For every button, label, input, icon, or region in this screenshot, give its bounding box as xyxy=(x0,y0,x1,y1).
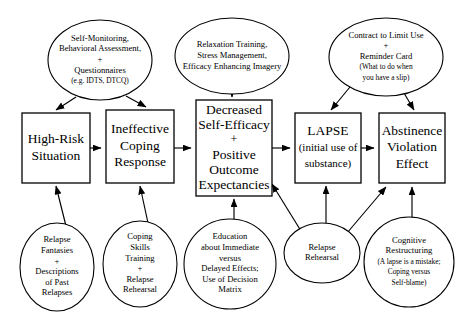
ellipse-coping-skills-training[interactable]: CopingSkillsTraining+RelapseRehearsal xyxy=(103,221,177,307)
node-text-line: Relapse xyxy=(126,274,153,284)
edge-relapse-rehearsal-to-abstinence-violation-effect xyxy=(347,187,386,233)
box-ineffective-coping-response[interactable]: IneffectiveCopingResponse xyxy=(106,110,174,183)
node-text-line: Reminder Card xyxy=(360,51,413,61)
node-text-line: + xyxy=(55,256,60,266)
node-text-line: substance) xyxy=(305,157,352,170)
node-text-line: Self-Efficacy xyxy=(198,117,270,132)
node-text-line: Abstinence xyxy=(382,123,443,138)
node-text-line: (initial use of xyxy=(299,141,358,154)
ellipse-relapse-rehearsal[interactable]: RelapseRehearsal xyxy=(284,223,360,283)
ellipse-cognitive-restructuring[interactable]: CognitiveRestructuring(A lapse is a mist… xyxy=(364,217,454,307)
node-text-line: Positive xyxy=(212,147,256,162)
edge-contract-to-limit-use-to-lapse xyxy=(331,87,350,110)
node-text-line: Questionnaires xyxy=(74,65,126,75)
node-text-line: Contract to Limit Use xyxy=(348,30,423,40)
edge-relapse-fantasies-to-high-risk-situation xyxy=(56,186,66,226)
node-text-line: Relapse xyxy=(43,234,70,244)
node-text-line: you have a slip) xyxy=(363,73,411,82)
ellipse-self-monitoring[interactable]: Self-Monitoring,Behavioral Assessment,+Q… xyxy=(48,20,152,100)
node-text-line: + xyxy=(384,40,389,50)
node-text-line: (A lapse is a mistake; xyxy=(377,257,440,266)
node-text-line: Rehearsal xyxy=(305,252,339,262)
node-text-line: Education xyxy=(213,231,249,241)
node-text-line: Coping versus xyxy=(388,267,431,276)
node-text-line: Delayed Effects; xyxy=(201,263,258,273)
node-text-line: Relapse xyxy=(308,242,335,252)
node-text-line: Training xyxy=(125,253,155,263)
node-text-line: about Immediate xyxy=(201,242,259,252)
node-text-line: Outcome xyxy=(209,162,259,177)
node-text-line: Expectancies xyxy=(198,177,269,192)
ellipse-education-immediate-delayed[interactable]: Educationabout ImmediateversusDelayed Ef… xyxy=(184,219,276,309)
box-decreased-self-efficacy[interactable]: DecreasedSelf-Efficacy+PositiveOutcomeEx… xyxy=(196,100,272,196)
diagram-canvas: High-RiskSituationIneffectiveCopingRespo… xyxy=(0,0,465,318)
node-text-line: LAPSE xyxy=(307,123,348,138)
edge-self-monitoring-to-ineffective-coping-response xyxy=(126,96,146,107)
edge-self-monitoring-to-high-risk-situation xyxy=(56,97,76,110)
box-lapse[interactable]: LAPSE(initial use ofsubstance) xyxy=(295,113,361,183)
node-text-line: Response xyxy=(114,154,166,169)
ellipse-relaxation-training[interactable]: Relaxation Training,Stress Management,Ef… xyxy=(175,18,289,94)
node-text-line: versus xyxy=(219,253,242,263)
edge-contract-to-limit-use-to-abstinence-violation-effect xyxy=(404,93,414,110)
node-text-line: of Past xyxy=(45,277,69,287)
node-text-line: Use of Decision xyxy=(202,274,258,284)
node-text-line: Relaxation Training, xyxy=(197,39,268,49)
node-text-line: Stress Management, xyxy=(197,50,267,60)
node-text-line: Coping xyxy=(120,138,160,153)
node-text-line: Relapses xyxy=(42,287,73,297)
ellipse-relapse-fantasies[interactable]: RelapseFantasies+Descriptionsof PastRela… xyxy=(20,223,94,311)
node-text-line: Descriptions xyxy=(35,266,79,276)
node-text-line: Decreased xyxy=(206,102,262,117)
node-text-line: Violation xyxy=(387,139,437,154)
node-text-line: Effect xyxy=(396,156,429,171)
node-text-line: Rehearsal xyxy=(123,284,157,294)
node-text-line: + xyxy=(231,132,238,146)
relapse-prevention-diagram: High-RiskSituationIneffectiveCopingRespo… xyxy=(0,0,465,318)
node-text-line: + xyxy=(98,54,103,64)
node-text-line: High-Risk xyxy=(28,131,85,146)
edge-relapse-rehearsal-to-decreased-self-efficacy xyxy=(272,184,301,231)
node-text-line: Efficacy Enhancing Imagery xyxy=(183,61,282,71)
node-text-line: Skills xyxy=(130,242,150,252)
edge-coping-skills-training-to-ineffective-coping-response xyxy=(140,186,148,223)
ellipse-contract-to-limit-use[interactable]: Contract to Limit Use+Reminder Card(What… xyxy=(329,18,443,96)
node-text-line: Self-Monitoring, xyxy=(71,33,129,43)
node-text-line: Matrix xyxy=(218,284,242,294)
node-text-line: Behavioral Assessment, xyxy=(59,43,141,53)
node-text-line: + xyxy=(138,263,143,273)
box-high-risk-situation[interactable]: High-RiskSituation xyxy=(22,113,90,183)
node-text-line: Ineffective xyxy=(111,121,169,136)
node-text-line: Restructuring xyxy=(386,245,433,255)
node-text-line: Situation xyxy=(32,148,81,163)
node-text-line: (e.g. IDTS, DTCQ) xyxy=(71,76,129,85)
nodes-layer: High-RiskSituationIneffectiveCopingRespo… xyxy=(20,18,454,311)
node-text-line: Self-blame) xyxy=(392,278,427,287)
node-text-line: Coping xyxy=(127,231,153,241)
box-abstinence-violation-effect[interactable]: AbstinenceViolationEffect xyxy=(379,113,445,183)
node-text-line: Fantasies xyxy=(41,245,74,255)
node-text-line: (What to do when xyxy=(359,62,412,71)
node-text-line: Cognitive xyxy=(392,235,426,245)
